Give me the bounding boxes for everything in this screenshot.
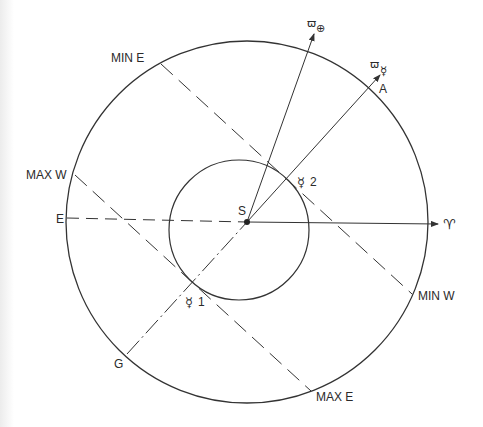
earth-symbol-icon: ⊕ bbox=[316, 22, 325, 35]
label-a: A bbox=[379, 82, 387, 96]
mercury-perihelion-varpi-icon: ϖ bbox=[370, 58, 379, 71]
g-to-sun-dashdot-line bbox=[127, 222, 247, 354]
earth-perihelion-varpi-icon: ϖ bbox=[307, 17, 316, 30]
label-g: G bbox=[114, 357, 123, 371]
label-min-e: MIN E bbox=[111, 51, 144, 65]
mercury-2-index: 2 bbox=[310, 175, 317, 189]
min-e-to-min-w-dashed-line bbox=[161, 64, 412, 294]
mercury-1-icon: ☿ bbox=[185, 295, 193, 310]
sun-to-aries-arrow bbox=[247, 222, 438, 224]
mercury-1-index: 1 bbox=[198, 295, 205, 309]
orbit-diagram: MIN E MAX W E G A MIN W MAX E S ♈ ☿ 1 ☿ … bbox=[0, 0, 483, 427]
e-to-sun-dashed-line bbox=[67, 218, 247, 222]
sun-to-earth-perihelion-arrow bbox=[247, 34, 314, 222]
label-e: E bbox=[56, 212, 64, 226]
label-max-w: MAX W bbox=[26, 168, 67, 182]
label-max-e: MAX E bbox=[316, 390, 353, 404]
sun-point bbox=[244, 219, 250, 225]
sun-to-mercury-perihelion-arrow bbox=[247, 75, 380, 222]
max-w-to-max-e-dashed-line bbox=[75, 175, 311, 391]
mercury-perihelion-symbol-icon: ☿ bbox=[380, 64, 387, 78]
label-min-w: MIN W bbox=[418, 289, 455, 303]
label-sun: S bbox=[238, 204, 246, 218]
aries-icon: ♈ bbox=[443, 216, 456, 232]
mercury-2-icon: ☿ bbox=[297, 175, 305, 190]
